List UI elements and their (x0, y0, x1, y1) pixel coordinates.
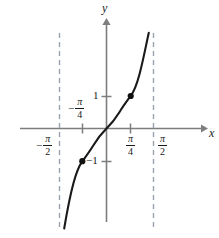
pi-over-4-numerator: π (126, 133, 135, 146)
neg-pi-over-4-numerator: π (75, 96, 84, 109)
x-tick-label-pi-over-4: π 4 (125, 133, 135, 157)
y-tick-label-neg-one: −1 (86, 155, 98, 166)
point-pi-over-4 (128, 93, 134, 99)
x-tick-label-neg-pi-over-2: − π 2 (36, 133, 52, 157)
x-tick-label-neg-pi-over-4: − π 4 (68, 96, 84, 120)
plot-canvas (0, 0, 219, 238)
neg-pi-over-4-denominator: 4 (75, 109, 84, 121)
neg-pi-over-2-sign: − (36, 140, 42, 151)
y-axis-label: y (102, 2, 107, 14)
tangent-function-graph: y x 1 −1 − π 2 − π 4 π 4 π 2 (0, 0, 219, 238)
pi-over-2-denominator: 2 (158, 146, 167, 158)
x-axis (20, 124, 208, 132)
neg-pi-over-4-fraction: π 4 (75, 96, 84, 120)
y-tick-label-one: 1 (93, 90, 99, 101)
neg-pi-over-2-denominator: 2 (43, 146, 52, 158)
x-axis-label: x (209, 127, 214, 139)
y-axis (102, 18, 110, 222)
pi-over-4-denominator: 4 (126, 146, 135, 158)
pi-over-4-fraction: π 4 (126, 133, 135, 157)
neg-pi-over-2-numerator: π (43, 133, 52, 146)
neg-pi-over-2-fraction: π 2 (43, 133, 52, 157)
x-tick-label-pi-over-2: π 2 (157, 133, 167, 157)
neg-pi-over-4-sign: − (68, 103, 74, 114)
pi-over-2-fraction: π 2 (158, 133, 167, 157)
point-neg-pi-over-4 (79, 158, 85, 164)
pi-over-2-numerator: π (158, 133, 167, 146)
